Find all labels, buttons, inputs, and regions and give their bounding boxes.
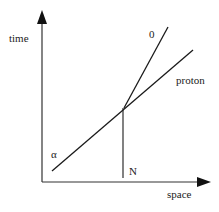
spacetime-diagram: time space 0 proton α N xyxy=(0,0,219,212)
space-axis-label: space xyxy=(167,188,192,200)
proton-label: proton xyxy=(176,74,205,86)
space-axis-arrow-icon xyxy=(197,177,211,187)
space-axis xyxy=(42,177,211,187)
time-axis xyxy=(37,10,47,182)
time-axis-label: time xyxy=(9,32,29,44)
time-axis-arrow-icon xyxy=(37,10,47,24)
n-label: N xyxy=(129,165,137,177)
zero-label: 0 xyxy=(149,28,155,40)
alpha-label: α xyxy=(51,148,57,160)
zero-line xyxy=(124,27,168,108)
